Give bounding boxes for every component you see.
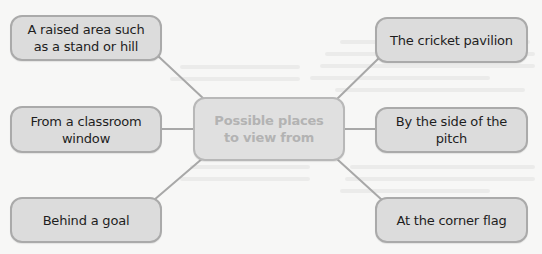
node-side-of-pitch: By the side of the pitch (375, 107, 528, 153)
node-cricket-pavilion: The cricket pavilion (375, 17, 528, 63)
node-behind-goal: Behind a goal (10, 197, 162, 243)
center-node: Possible places to view from (193, 97, 345, 161)
connector-top-right (336, 57, 380, 100)
node-label: At the corner flag (396, 212, 506, 229)
node-classroom-window: From a classroom window (10, 106, 162, 153)
node-label: Behind a goal (43, 212, 130, 229)
connector-bottom-left (154, 158, 203, 200)
node-label: From a classroom window (20, 113, 152, 147)
node-label: A raised area such as a stand or hill (20, 21, 152, 55)
node-raised-area: A raised area such as a stand or hill (10, 15, 162, 61)
node-corner-flag: At the corner flag (375, 197, 528, 243)
node-label: The cricket pavilion (390, 32, 513, 49)
center-node-label: Possible places to view from (213, 112, 325, 146)
connector-top-left (158, 56, 205, 100)
connector-bottom-right (338, 160, 382, 200)
node-label: By the side of the pitch (385, 113, 518, 147)
